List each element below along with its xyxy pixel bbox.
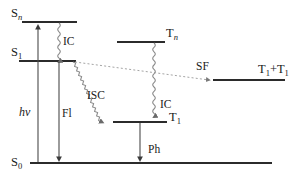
level-label-t1-plus-t1: T1+T1 [258, 62, 289, 78]
absorption-label: hν [19, 105, 31, 119]
level-label-sn: Sn [11, 6, 22, 22]
phosphorescence-label: Ph [148, 143, 160, 155]
isc-label: ISC [87, 89, 105, 101]
diagram-canvas: Sn S1 Tn T1 T1+T1 S0 hν IC Fl ISC IC SF … [0, 0, 303, 177]
singlet-fission-arrow [75, 62, 209, 80]
level-label-t1: T1 [169, 110, 181, 126]
level-label-s1: S1 [11, 45, 22, 61]
ic-triplet-arrow [153, 43, 156, 117]
process-labels: hν IC Fl ISC IC SF Ph [19, 35, 209, 155]
level-label-s0: S0 [11, 155, 22, 171]
jablonski-diagram: Sn S1 Tn T1 T1+T1 S0 hν IC Fl ISC IC SF … [0, 0, 303, 177]
level-label-tn: Tn [166, 26, 178, 42]
singlet-fission-label: SF [196, 60, 209, 72]
ic-singlet-arrow [58, 23, 61, 62]
ic-triplet-label: IC [160, 98, 172, 110]
fluorescence-label: Fl [62, 107, 72, 119]
ic-singlet-label: IC [63, 35, 75, 47]
